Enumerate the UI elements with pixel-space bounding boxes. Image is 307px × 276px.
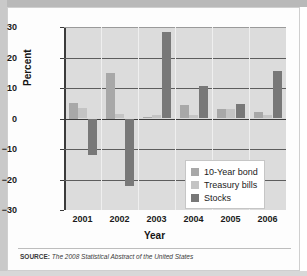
- bar-2003-10-year-bond: [143, 117, 152, 119]
- legend-item-10-year-bond: 10-Year bond: [191, 165, 258, 178]
- source-divider: [18, 248, 291, 249]
- bar-2004-stocks: [199, 86, 208, 119]
- y-tick-0: 0: [0, 115, 17, 124]
- bar-2004-treasury-bills: [189, 115, 198, 119]
- source-title: The 2008 Statistical Abstract of the Uni…: [52, 253, 193, 260]
- y-tick-10: 10: [0, 84, 17, 93]
- bar-2005-stocks: [236, 104, 245, 119]
- bar-2003-treasury-bills: [152, 115, 161, 118]
- bar-2001-stocks: [88, 119, 97, 156]
- bar-group-2003: [138, 27, 175, 210]
- bar-group-2001: [64, 27, 101, 210]
- bar-2006-10-year-bond: [254, 112, 263, 118]
- bar-group-2002: [101, 27, 138, 210]
- y-tick--10: −10: [0, 145, 17, 154]
- x-tick-2006: 2006: [248, 214, 288, 224]
- legend-label: Treasury bills: [204, 180, 257, 190]
- x-tick-2003: 2003: [137, 214, 177, 224]
- scan-edge-bottom: [0, 271, 307, 276]
- chart-legend: 10-Year bondTreasury billsStocks: [185, 160, 265, 209]
- scan-edge-top: [0, 0, 307, 7]
- bar-2006-stocks: [273, 71, 282, 118]
- legend-swatch-icon: [191, 168, 199, 176]
- x-tick-2001: 2001: [63, 214, 103, 224]
- scan-edge-left: [0, 0, 7, 276]
- y-axis-title: Percent: [22, 49, 33, 86]
- source-caption: SOURCE: The 2008 Statistical Abstract of…: [20, 253, 193, 260]
- y-tick--30: −30: [0, 206, 17, 215]
- y-tick-20: 20: [0, 54, 17, 63]
- x-tick-2005: 2005: [211, 214, 251, 224]
- y-tick--20: −20: [0, 176, 17, 185]
- bar-2002-10-year-bond: [106, 73, 115, 119]
- y-tick-mark--30: [60, 210, 64, 211]
- bar-2002-treasury-bills: [115, 114, 124, 119]
- bar-2004-10-year-bond: [180, 105, 189, 119]
- bar-2002-stocks: [125, 119, 134, 187]
- bar-2003-stocks: [162, 32, 171, 119]
- bar-2005-10-year-bond: [217, 109, 226, 118]
- x-axis-title: Year: [8, 230, 301, 241]
- x-tick-2002: 2002: [100, 214, 140, 224]
- legend-swatch-icon: [191, 194, 199, 202]
- legend-item-stocks: Stocks: [191, 191, 258, 204]
- bar-2005-treasury-bills: [226, 109, 235, 118]
- bar-2006-treasury-bills: [263, 115, 272, 118]
- chart-card: Percent 3020100−10−20−30 200120022003200…: [7, 7, 300, 271]
- legend-swatch-icon: [191, 181, 199, 189]
- y-tick-30: 30: [0, 23, 17, 32]
- x-tick-2004: 2004: [174, 214, 214, 224]
- legend-label: Stocks: [204, 193, 231, 203]
- figure-container: Percent 3020100−10−20−30 200120022003200…: [0, 0, 307, 276]
- bar-2001-treasury-bills: [78, 108, 87, 118]
- legend-label: 10-Year bond: [204, 167, 258, 177]
- legend-item-treasury-bills: Treasury bills: [191, 178, 258, 191]
- source-label: SOURCE:: [20, 253, 50, 260]
- bar-2001-10-year-bond: [69, 103, 78, 118]
